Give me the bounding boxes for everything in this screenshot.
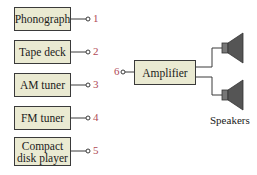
terminal-1: 1: [93, 12, 99, 24]
source-tape-deck: Tape deck: [14, 40, 71, 64]
amplifier-box: Amplifier: [134, 60, 196, 85]
amplifier-label: Amplifier: [142, 67, 187, 79]
terminal-2: 2: [93, 45, 99, 57]
source-phonograph: Phonograph: [14, 7, 71, 31]
source-cd-player: Compact disk player: [14, 137, 71, 166]
speakers-label: Speakers: [210, 114, 250, 126]
terminal-6: 6: [114, 65, 120, 77]
source-label: Compact disk player: [15, 140, 70, 164]
terminal-3: 3: [93, 78, 99, 90]
source-label: Tape deck: [19, 46, 66, 58]
speaker-top-icon: [222, 33, 243, 63]
source-label: Phonograph: [15, 13, 71, 25]
source-am-tuner: AM tuner: [14, 73, 71, 97]
terminal-5: 5: [93, 144, 99, 156]
source-label: AM tuner: [20, 79, 65, 91]
source-label: FM tuner: [21, 112, 64, 124]
terminal-4: 4: [93, 111, 99, 123]
speaker-bottom-icon: [222, 80, 243, 110]
source-fm-tuner: FM tuner: [14, 106, 71, 130]
